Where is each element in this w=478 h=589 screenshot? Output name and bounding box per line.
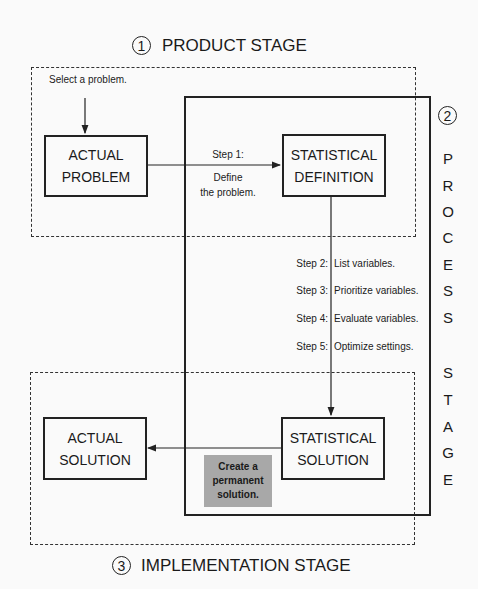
box-label-line: SOLUTION [297,449,369,471]
select-problem-note: Select a problem. [49,74,127,85]
step-2-label: Step 2: [280,258,328,269]
note-line: Create a [218,460,257,474]
step-1-desc-line2: the problem. [188,187,268,198]
process-stage-letter: G [441,444,455,461]
box-label-line: STATISTICAL [290,427,377,449]
step-1-label: Step 1: [198,149,258,160]
stage-3-number-circle: 3 [112,556,131,575]
step-5-label: Step 5: [280,341,328,352]
process-stage-letter: P [441,150,455,167]
step-4-desc: Evaluate variables. [334,313,419,324]
process-stage-letter: O [441,203,455,220]
process-stage-letter: S [441,364,455,381]
statistical-solution-box: STATISTICAL SOLUTION [281,417,385,480]
note-line: solution. [217,488,259,502]
box-label-line: SOLUTION [59,449,131,471]
process-stage-letter: E [441,256,455,273]
step-4-label: Step 4: [280,313,328,324]
box-label-line: PROBLEM [62,166,130,188]
step-1-desc-line1: Define [188,172,268,183]
process-stage-letter: C [441,229,455,246]
step-3-desc: Prioritize variables. [334,285,418,296]
process-stage-letter: A [441,418,455,435]
permanent-solution-note: Create a permanent solution. [204,455,272,507]
process-stage-letter: T [441,391,455,408]
stage-2-number: 2 [444,108,452,124]
process-stage-letter: R [441,177,455,194]
statistical-definition-box: STATISTICAL DEFINITION [282,134,386,197]
step-5-desc: Optimize settings. [334,341,413,352]
box-label-line: STATISTICAL [291,144,378,166]
stage-2-number-circle: 2 [438,106,457,125]
actual-problem-box: ACTUAL PROBLEM [44,135,148,197]
box-label-line: ACTUAL [68,144,123,166]
box-label-line: ACTUAL [67,427,122,449]
note-line: permanent [212,474,263,488]
stage-3-number: 3 [118,558,126,574]
process-stage-letter: E [441,471,455,488]
step-2-desc: List variables. [334,258,395,269]
process-stage-letter: S [441,309,455,326]
process-stage-letter: S [441,282,455,299]
step-3-label: Step 3: [280,285,328,296]
implementation-stage-title: IMPLEMENTATION STAGE [141,556,351,576]
box-label-line: DEFINITION [294,166,373,188]
actual-solution-box: ACTUAL SOLUTION [43,417,147,480]
